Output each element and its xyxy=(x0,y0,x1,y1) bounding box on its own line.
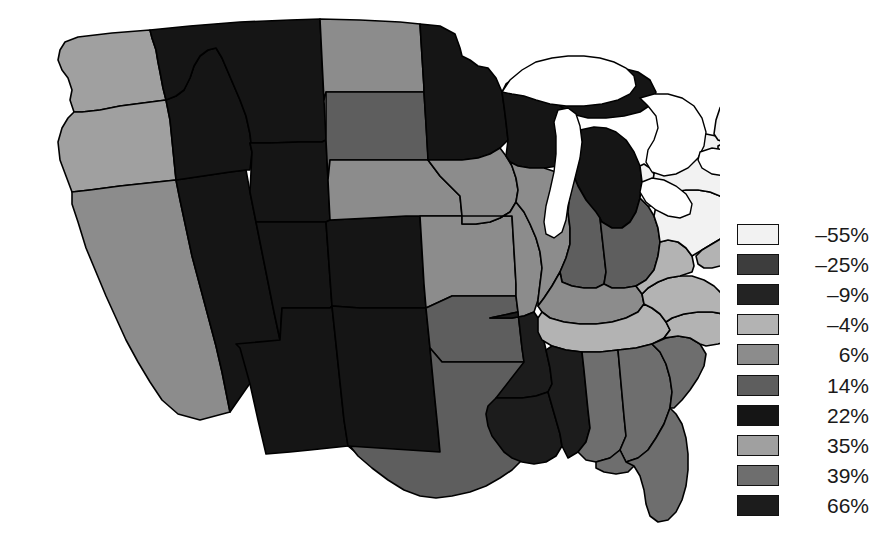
legend-swatch xyxy=(737,495,779,516)
us-choropleth-map xyxy=(0,0,720,553)
legend-swatch xyxy=(737,284,779,305)
state-CO[interactable] xyxy=(326,216,426,308)
legend-row[interactable]: 6% xyxy=(731,340,875,370)
legend-row[interactable]: –25% xyxy=(731,249,875,279)
map-figure: –55% –25% –9% –4% 6% 14% 22% 35% xyxy=(0,0,875,553)
us-map-svg xyxy=(0,0,720,553)
legend-label: –25% xyxy=(779,254,875,275)
legend-swatch xyxy=(737,435,779,456)
legend-swatch xyxy=(737,254,779,275)
legend-label: 22% xyxy=(779,405,875,426)
state-ND[interactable] xyxy=(320,19,424,100)
legend-row[interactable]: 35% xyxy=(731,430,875,460)
legend-label: 14% xyxy=(779,375,875,396)
state-VT[interactable] xyxy=(714,94,720,142)
legend-swatch xyxy=(737,224,779,245)
legend-label: 35% xyxy=(779,435,875,456)
legend-row[interactable]: –9% xyxy=(731,279,875,309)
legend-row[interactable]: 39% xyxy=(731,461,875,491)
legend-row[interactable]: –4% xyxy=(731,310,875,340)
state-MN[interactable] xyxy=(420,24,508,160)
state-OK[interactable] xyxy=(426,296,524,362)
legend-label: –4% xyxy=(779,314,875,335)
legend-swatch xyxy=(737,375,779,396)
legend-swatch xyxy=(737,405,779,426)
legend: –55% –25% –9% –4% 6% 14% 22% 35% xyxy=(731,219,875,524)
legend-row[interactable]: 66% xyxy=(731,491,875,521)
legend-row[interactable]: 22% xyxy=(731,400,875,430)
state-WY[interactable] xyxy=(250,140,330,222)
legend-label: –9% xyxy=(779,284,875,305)
state-NM[interactable] xyxy=(332,306,440,456)
legend-row[interactable]: –55% xyxy=(731,219,875,249)
legend-label: 39% xyxy=(779,465,875,486)
legend-label: 6% xyxy=(779,344,875,365)
legend-swatch xyxy=(737,465,779,486)
state-KS[interactable] xyxy=(420,216,516,308)
state-OR[interactable] xyxy=(58,100,176,192)
legend-label: –55% xyxy=(779,224,875,245)
legend-swatch xyxy=(737,344,779,365)
state-WA[interactable] xyxy=(58,30,166,112)
legend-row[interactable]: 14% xyxy=(731,370,875,400)
legend-label: 66% xyxy=(779,495,875,516)
legend-swatch xyxy=(737,314,779,335)
